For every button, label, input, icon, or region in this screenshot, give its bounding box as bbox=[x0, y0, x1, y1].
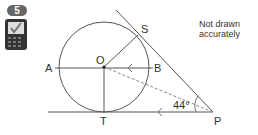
label-A: A bbox=[45, 62, 53, 74]
radius-OS bbox=[104, 35, 138, 67]
circle-tangent-diagram: O A B S T P 44° bbox=[0, 0, 258, 135]
label-T: T bbox=[100, 115, 107, 127]
label-P: P bbox=[214, 115, 221, 127]
label-O: O bbox=[96, 54, 105, 66]
angle-arc bbox=[195, 96, 198, 112]
label-B: B bbox=[154, 62, 161, 74]
angle-label: 44° bbox=[173, 99, 190, 111]
tangent-SP bbox=[116, 10, 213, 112]
label-S: S bbox=[141, 23, 148, 35]
